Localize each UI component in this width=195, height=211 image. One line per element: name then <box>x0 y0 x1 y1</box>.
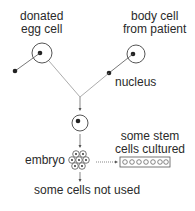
label-line: from patient <box>123 23 186 36</box>
label-donated-egg: donated egg cell <box>20 10 63 36</box>
label-embryo: embryo <box>25 154 65 167</box>
connector <box>49 61 80 97</box>
egg-cell-icon <box>13 43 52 73</box>
culture-dish-icon <box>120 157 170 167</box>
embryo-icon <box>69 151 90 170</box>
label-line: egg cell <box>20 23 63 36</box>
label-stem-cells: some stem cells cultured <box>115 130 185 156</box>
body-cell-icon <box>80 45 145 97</box>
label-not-used: some cells not used <box>34 184 140 197</box>
label-nucleus: nucleus <box>115 76 156 89</box>
fused-cell-icon <box>72 115 88 131</box>
label-body-cell: body cell from patient <box>123 10 186 36</box>
label-line: cells cultured <box>115 143 185 156</box>
